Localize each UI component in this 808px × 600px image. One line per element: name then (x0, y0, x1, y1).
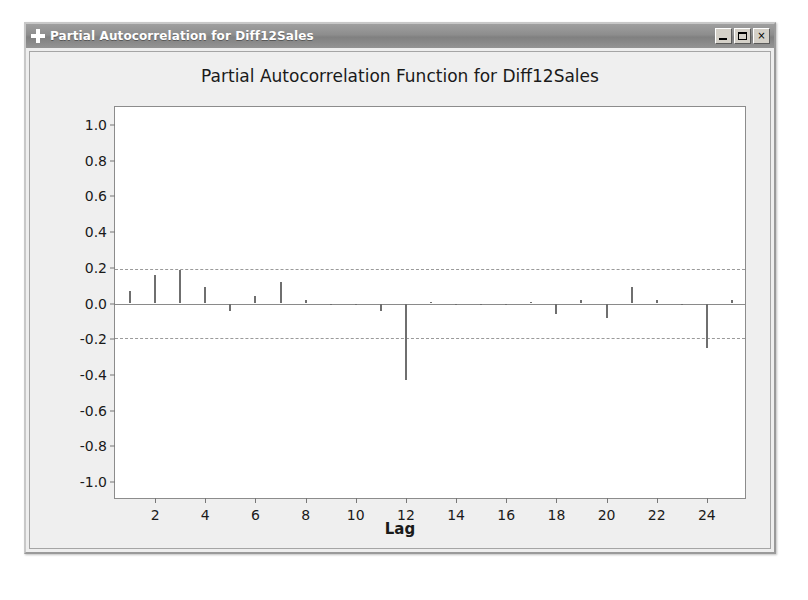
window-titlebar[interactable]: Partial Autocorrelation for Diff12Sales … (26, 24, 774, 48)
pacf-bar (129, 291, 131, 304)
x-tick-mark (155, 498, 156, 503)
y-tick-mark (110, 196, 115, 197)
pacf-bar (330, 304, 332, 305)
y-tick-mark (110, 374, 115, 375)
x-tick-label: 20 (598, 507, 616, 523)
x-tick-mark (607, 498, 608, 503)
plot-area: 1.00.80.60.40.20.0-0.2-0.4-0.6-0.8-1.024… (114, 106, 746, 499)
x-tick-mark (356, 498, 357, 503)
y-tick-mark (110, 482, 115, 483)
y-tick-label: 0.2 (85, 260, 107, 276)
y-tick-label: -0.2 (80, 331, 107, 347)
pacf-bar (229, 304, 231, 311)
x-tick-mark (506, 498, 507, 503)
x-tick-mark (255, 498, 256, 503)
x-tick-mark (205, 498, 206, 503)
y-tick-label: -0.6 (80, 403, 107, 419)
close-button[interactable]: × (753, 28, 770, 44)
pacf-bar (631, 287, 633, 303)
plus-icon (30, 28, 46, 44)
chart-canvas: Partial Autocorrelation Lag 1.00.80.60.4… (30, 52, 770, 548)
pacf-bar (305, 300, 307, 304)
y-tick-mark (110, 232, 115, 233)
pacf-bar (656, 300, 658, 304)
pacf-bar (731, 300, 733, 304)
y-tick-label: -0.4 (80, 367, 107, 383)
pacf-bar (480, 304, 482, 306)
pacf-bar (455, 304, 457, 305)
x-tick-label: 12 (397, 507, 415, 523)
window-client-area: Partial Autocorrelation Function for Dif… (29, 51, 771, 549)
x-tick-mark (707, 498, 708, 503)
pacf-bar (380, 304, 382, 311)
close-icon: × (754, 29, 769, 43)
significance-limit-line (115, 338, 745, 339)
pacf-bar (555, 304, 557, 315)
x-tick-label: 16 (497, 507, 515, 523)
x-tick-mark (657, 498, 658, 503)
x-tick-label: 10 (347, 507, 365, 523)
pacf-bar (706, 304, 708, 349)
x-tick-label: 8 (301, 507, 310, 523)
chart-window: Partial Autocorrelation for Diff12Sales … (24, 22, 776, 554)
maximize-button[interactable] (734, 28, 751, 44)
y-tick-mark (110, 410, 115, 411)
x-tick-label: 24 (698, 507, 716, 523)
significance-limit-line (115, 269, 745, 270)
x-tick-mark (556, 498, 557, 503)
pacf-bar (430, 302, 432, 304)
minimize-button[interactable] (715, 28, 732, 44)
pacf-bar (280, 282, 282, 303)
x-tick-label: 18 (547, 507, 565, 523)
plot-inner: 1.00.80.60.40.20.0-0.2-0.4-0.6-0.8-1.024… (115, 107, 745, 498)
x-tick-label: 6 (251, 507, 260, 523)
pacf-bar (505, 304, 507, 306)
window-title: Partial Autocorrelation for Diff12Sales (50, 29, 715, 43)
x-tick-mark (306, 498, 307, 503)
y-tick-label: 0.6 (85, 188, 107, 204)
pacf-bar (405, 304, 407, 381)
pacf-bar (530, 302, 532, 304)
x-tick-mark (406, 498, 407, 503)
x-tick-label: 22 (648, 507, 666, 523)
pacf-bar (154, 275, 156, 304)
x-tick-label: 2 (151, 507, 160, 523)
y-tick-mark (110, 446, 115, 447)
y-tick-label: 0.8 (85, 153, 107, 169)
y-tick-label: 1.0 (85, 117, 107, 133)
y-tick-label: 0.0 (85, 296, 107, 312)
y-tick-label: -1.0 (80, 474, 107, 490)
y-tick-mark (110, 124, 115, 125)
pacf-bar (254, 296, 256, 303)
pacf-bar (204, 287, 206, 303)
x-tick-mark (456, 498, 457, 503)
pacf-bar (179, 270, 181, 304)
x-tick-label: 4 (201, 507, 210, 523)
zero-line (115, 304, 745, 305)
x-tick-label: 14 (447, 507, 465, 523)
pacf-bar (580, 300, 582, 304)
pacf-bar (681, 304, 683, 306)
y-tick-mark (110, 160, 115, 161)
window-controls: × (715, 28, 770, 44)
pacf-bar (355, 304, 357, 306)
pacf-bar (606, 304, 608, 318)
y-tick-label: 0.4 (85, 224, 107, 240)
y-tick-label: -0.8 (80, 438, 107, 454)
